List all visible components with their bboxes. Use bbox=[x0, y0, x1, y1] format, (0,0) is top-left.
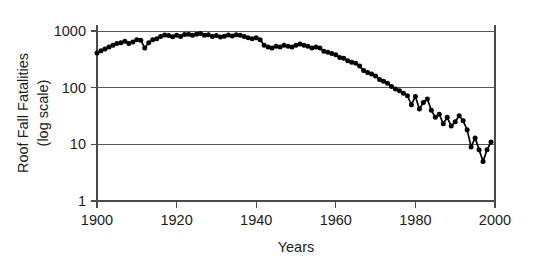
data-point bbox=[405, 93, 410, 98]
xtick-label-1960: 1960 bbox=[320, 212, 352, 228]
data-point bbox=[258, 37, 263, 42]
data-point bbox=[385, 81, 390, 86]
data-point bbox=[413, 94, 418, 99]
y-axis-title-line1: Roof Fall Fatalities bbox=[15, 53, 31, 173]
data-point bbox=[433, 115, 438, 120]
ytick-label-1000: 1000 bbox=[54, 23, 86, 39]
data-point bbox=[449, 124, 454, 129]
ytick-label-10: 10 bbox=[70, 136, 86, 152]
data-point bbox=[353, 61, 358, 66]
data-point bbox=[142, 46, 147, 51]
x-axis-ticks bbox=[97, 201, 495, 208]
data-point bbox=[469, 144, 474, 149]
roof-fall-fatalities-line-chart: 1000 100 10 1 1900 1920 1940 1960 1980 2… bbox=[0, 0, 536, 266]
data-point bbox=[417, 107, 422, 112]
y-axis-tick-labels: 1000 100 10 1 bbox=[54, 23, 86, 209]
data-point bbox=[465, 127, 470, 132]
data-point bbox=[445, 115, 450, 120]
data-point bbox=[373, 74, 378, 79]
data-point bbox=[317, 46, 322, 51]
y-axis-title-line2: (log scale) bbox=[35, 80, 51, 147]
data-point bbox=[477, 147, 482, 152]
data-point bbox=[421, 100, 426, 105]
series-line-roof-fall-fatalities bbox=[97, 34, 491, 162]
data-point bbox=[461, 118, 466, 123]
data-point bbox=[457, 113, 462, 118]
data-point bbox=[489, 139, 494, 144]
data-point bbox=[409, 102, 414, 107]
data-point bbox=[425, 97, 430, 102]
xtick-label-1920: 1920 bbox=[160, 212, 192, 228]
data-point bbox=[138, 38, 143, 43]
data-point bbox=[357, 64, 362, 69]
data-point bbox=[441, 121, 446, 126]
x-axis-tick-labels: 1900 1920 1940 1960 1980 2000 bbox=[81, 212, 511, 228]
xtick-label-1900: 1900 bbox=[81, 212, 113, 228]
data-point bbox=[429, 108, 434, 113]
data-point bbox=[146, 40, 151, 45]
chart-figure: 1000 100 10 1 1900 1920 1940 1960 1980 2… bbox=[0, 0, 536, 266]
axis-frame bbox=[97, 25, 495, 201]
data-point bbox=[437, 112, 442, 117]
xtick-label-2000: 2000 bbox=[479, 212, 511, 228]
data-point bbox=[481, 159, 486, 164]
ytick-label-1: 1 bbox=[78, 193, 86, 209]
data-point bbox=[485, 147, 490, 152]
y-axis-title: Roof Fall Fatalities (log scale) bbox=[15, 53, 51, 173]
xtick-label-1980: 1980 bbox=[399, 212, 431, 228]
x-axis-title: Years bbox=[278, 239, 315, 255]
y-axis-ticks bbox=[91, 31, 97, 201]
ytick-label-100: 100 bbox=[62, 80, 86, 96]
xtick-label-1940: 1940 bbox=[240, 212, 272, 228]
data-point bbox=[453, 119, 458, 124]
data-point bbox=[473, 135, 478, 140]
gridlines bbox=[97, 31, 495, 144]
